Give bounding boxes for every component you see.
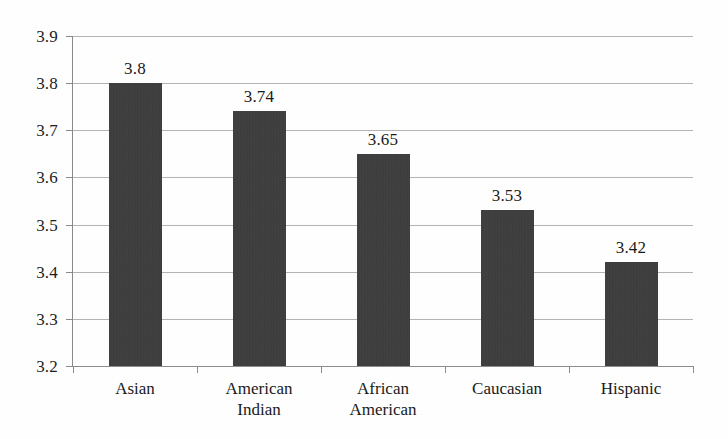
y-axis-tick-label: 3.7 xyxy=(12,122,58,139)
y-axis-tick-label: 3.8 xyxy=(12,75,58,92)
y-axis-tick xyxy=(66,225,73,226)
y-axis-tick xyxy=(66,36,73,37)
x-axis-category-label: African American xyxy=(313,378,453,420)
y-axis-tick-label: 3.2 xyxy=(12,358,58,375)
x-axis-tick xyxy=(197,366,198,373)
y-axis-tick xyxy=(66,177,73,178)
gridline xyxy=(73,366,693,367)
x-axis-tick xyxy=(321,366,322,373)
x-axis-category-label: Hispanic xyxy=(561,378,701,399)
bar-value-label: 3.42 xyxy=(581,239,681,256)
gridline xyxy=(73,36,693,37)
y-axis-tick xyxy=(66,130,73,131)
x-axis-category-label: Asian xyxy=(65,378,205,399)
y-axis-tick-label: 3.3 xyxy=(12,311,58,328)
x-axis-category-label: Caucasian xyxy=(437,378,577,399)
bar xyxy=(481,210,534,366)
bar xyxy=(605,262,658,366)
x-axis-tick xyxy=(693,366,694,373)
x-axis-category-label: American Indian xyxy=(189,378,329,420)
y-axis-tick xyxy=(66,319,73,320)
bar-chart: 3.93.83.73.63.53.43.33.23.8Asian3.74Amer… xyxy=(0,0,728,439)
y-axis-tick xyxy=(66,83,73,84)
x-axis-tick xyxy=(569,366,570,373)
y-axis-tick-label: 3.4 xyxy=(12,264,58,281)
y-axis-tick-label: 3.5 xyxy=(12,217,58,234)
bar xyxy=(109,83,162,366)
bar-value-label: 3.65 xyxy=(333,131,433,148)
y-axis-tick xyxy=(66,272,73,273)
y-axis-tick xyxy=(66,366,73,367)
x-axis-tick xyxy=(73,366,74,373)
bar-value-label: 3.53 xyxy=(457,187,557,204)
plot-area xyxy=(73,36,693,366)
y-axis-tick-label: 3.6 xyxy=(12,169,58,186)
bar xyxy=(233,111,286,366)
bar xyxy=(357,154,410,366)
gridline xyxy=(73,83,693,84)
bar-value-label: 3.8 xyxy=(85,60,185,77)
y-axis-tick-label: 3.9 xyxy=(12,28,58,45)
bar-value-label: 3.74 xyxy=(209,88,309,105)
x-axis-tick xyxy=(445,366,446,373)
